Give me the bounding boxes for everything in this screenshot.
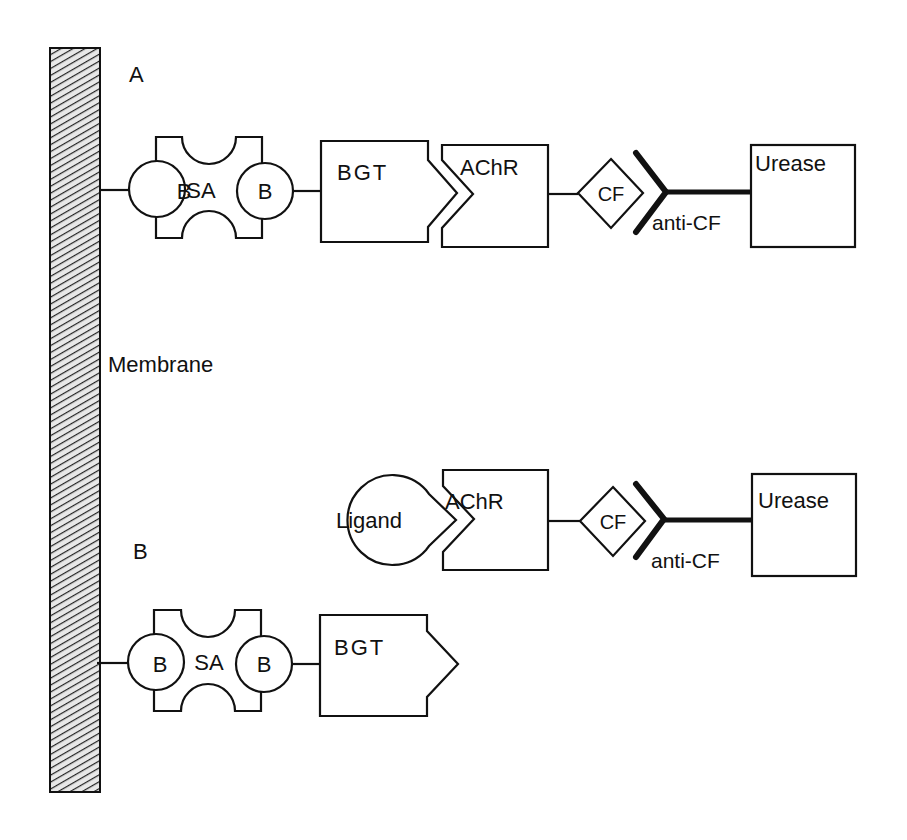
bgt-box [321, 141, 457, 242]
diagram-canvas: Membrane A B B SA B BGT AChR CF anti-CF … [0, 0, 907, 840]
biotin-right-label: B [258, 179, 273, 204]
urease-label-released: Urease [758, 488, 829, 513]
biotin-left-label-b: B [153, 652, 168, 677]
cf-label: CF [598, 183, 625, 205]
panel-a-label: A [129, 62, 144, 87]
panel-b-label: B [133, 539, 148, 564]
streptavidin-label-b: SA [194, 650, 224, 675]
achr-label: AChR [460, 155, 519, 180]
bgt-box-b [320, 615, 458, 716]
ligand-label: Ligand [336, 508, 402, 533]
streptavidin-label: SA [186, 178, 216, 203]
bgt-label: BGT [337, 160, 388, 185]
bgt-label-b: BGT [334, 635, 385, 660]
membrane [50, 48, 100, 792]
cf-label-released: CF [600, 511, 627, 533]
membrane-label: Membrane [108, 352, 213, 377]
biotin-right-label-b: B [257, 652, 272, 677]
achr-box-released [443, 470, 548, 570]
anti-cf-label-released: anti-CF [651, 549, 720, 572]
anti-cf-label: anti-CF [652, 211, 721, 234]
urease-label: Urease [755, 151, 826, 176]
achr-label-released: AChR [445, 489, 504, 514]
panel-b-bound-complex [97, 610, 458, 716]
